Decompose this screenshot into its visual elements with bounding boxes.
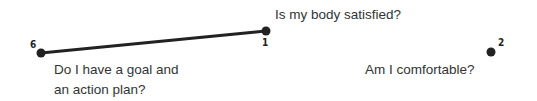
node-2-dot xyxy=(487,48,496,57)
node-6-dot xyxy=(37,49,46,58)
node-1-label: 1 xyxy=(262,38,268,48)
question-goal-line2: an action plan? xyxy=(54,80,146,100)
node-2-label: 2 xyxy=(498,38,504,48)
node-6-label: 6 xyxy=(30,40,36,50)
question-goal-line1: Do I have a goal and xyxy=(54,60,179,80)
question-comfort: Am I comfortable? xyxy=(365,60,475,80)
edge-6-to-1 xyxy=(41,31,266,53)
node-1-dot xyxy=(262,27,271,36)
diagram: 6 1 2 Is my body satisfied? Do I have a … xyxy=(0,0,537,101)
question-body: Is my body satisfied? xyxy=(275,5,401,25)
